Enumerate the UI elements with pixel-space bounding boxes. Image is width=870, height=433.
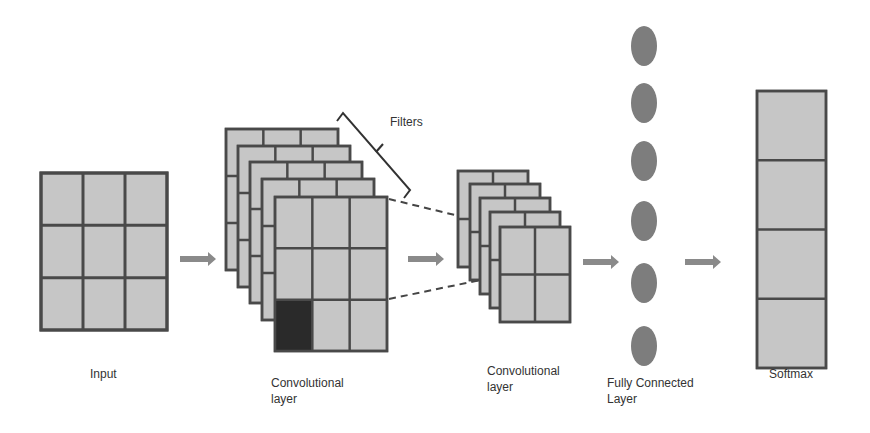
input-label: Input [90,366,117,382]
fc-node-6 [631,326,657,366]
fully-connected-label: Fully Connected Layer [607,375,694,407]
highlighted-cell [275,300,312,351]
input-grid [41,173,167,330]
conv-layer-2-label: Convolutional layer [487,363,560,395]
fc-node-2 [631,83,657,123]
cnn-diagram [0,0,870,433]
arrow-fc-to-softmax [685,255,721,269]
filters-bracket-tick [376,144,383,152]
arrow-conv2-to-fc [583,255,619,269]
fc-node-5 [631,263,657,303]
conv-layer-1-label: Convolutional layer [271,375,344,407]
fc-node-4 [631,201,657,241]
arrow-input-to-conv1 [180,252,216,266]
filters-label: Filters [390,114,423,130]
softmax-label: Softmax [769,366,813,382]
arrow-conv1-to-conv2 [408,252,444,266]
fc-node-1 [631,26,657,66]
fc-node-3 [631,141,657,181]
